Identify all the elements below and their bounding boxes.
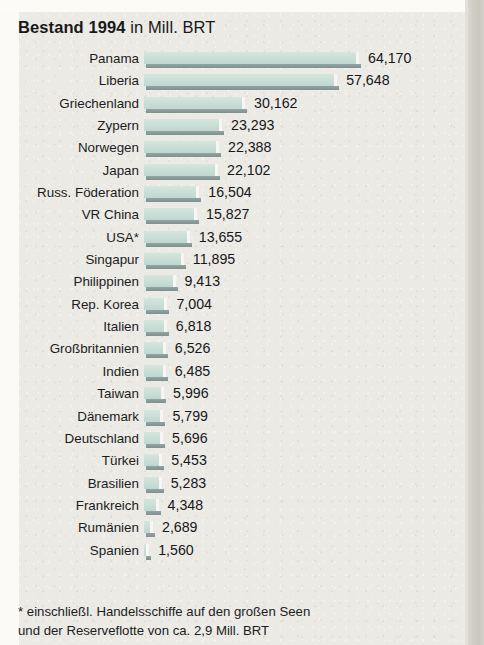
- bar-group: [144, 162, 222, 184]
- bar: [144, 141, 219, 153]
- bar-value-label: 9,413: [185, 273, 221, 289]
- bar-end-highlight: [356, 52, 359, 64]
- bar-value-label: 5,996: [173, 385, 209, 401]
- bar-category-label: Großbritannien: [0, 341, 139, 356]
- bar-drop-shadow: [146, 489, 164, 493]
- bar-group: [144, 385, 168, 407]
- bar-group: [144, 430, 167, 452]
- bar-group: [144, 139, 223, 161]
- bar-drop-shadow: [146, 377, 168, 381]
- bar-group: [144, 452, 166, 474]
- bar-category-label: USA*: [0, 230, 139, 245]
- chart-row: Griechenland30,162: [0, 95, 449, 117]
- bar-value-label: 23,293: [231, 117, 274, 133]
- chart-row: Liberia57,648: [0, 72, 449, 94]
- bar-group: [144, 72, 341, 94]
- bar-drop-shadow: [146, 556, 151, 560]
- bar-value-label: 13,655: [199, 229, 242, 245]
- bar-drop-shadow: [146, 444, 165, 448]
- bar-end-highlight: [187, 231, 190, 243]
- chart-row: Italien6,818: [0, 318, 449, 340]
- bar-end-highlight: [219, 119, 222, 131]
- bar-value-label: 1,560: [158, 542, 194, 558]
- bar-drop-shadow: [146, 64, 361, 68]
- chart-row: Philippinen9,413: [0, 273, 449, 295]
- bar-category-label: Panama: [0, 51, 139, 66]
- bar-end-highlight: [164, 320, 167, 332]
- footnote: * einschließl. Handelsschiffe auf den gr…: [18, 603, 418, 640]
- bar-value-label: 22,388: [228, 139, 271, 155]
- bar-group: [144, 206, 201, 228]
- bar-end-highlight: [164, 298, 167, 310]
- bar-value-label: 22,102: [227, 162, 270, 178]
- bar-drop-shadow: [146, 220, 199, 224]
- bar-group: [144, 251, 188, 273]
- bar-category-label: Deutschland: [0, 431, 139, 446]
- page-top-margin: [0, 0, 484, 12]
- bar-value-label: 5,799: [172, 408, 208, 424]
- bar-category-label: Dänemark: [0, 409, 139, 424]
- page-title-bold: Bestand 1994: [18, 18, 126, 36]
- bar-group: [144, 117, 226, 139]
- footnote-line-1: * einschließl. Handelsschiffe auf den gr…: [18, 603, 418, 622]
- bar: [144, 208, 197, 220]
- chart-row: Zypern23,293: [0, 117, 449, 139]
- bar-value-label: 6,818: [176, 318, 212, 334]
- bar-category-label: Taiwan: [0, 386, 139, 401]
- bar-end-highlight: [181, 253, 184, 265]
- bar-drop-shadow: [146, 332, 169, 336]
- bar-group: [144, 497, 163, 519]
- bar-end-highlight: [146, 544, 149, 556]
- bar-category-label: Philippinen: [0, 274, 139, 289]
- bar-category-label: Rep. Korea: [0, 297, 139, 312]
- bar-category-label: Brasilien: [0, 476, 139, 491]
- bar-group: [144, 408, 167, 430]
- bar: [144, 275, 176, 287]
- bar-end-highlight: [216, 141, 219, 153]
- bar-value-label: 5,696: [172, 430, 208, 446]
- bar-drop-shadow: [146, 176, 220, 180]
- bar-end-highlight: [161, 387, 164, 399]
- bar-end-highlight: [242, 97, 245, 109]
- bar-category-label: VR China: [0, 207, 139, 222]
- chart-row: Japan22,102: [0, 162, 449, 184]
- bar-drop-shadow: [146, 287, 178, 291]
- bar-category-label: Singapur: [0, 252, 139, 267]
- bar-end-highlight: [173, 275, 176, 287]
- bar: [144, 97, 245, 109]
- bar-category-label: Norwegen: [0, 140, 139, 155]
- chart-row: VR China15,827: [0, 206, 449, 228]
- bar-group: [144, 542, 153, 564]
- bar-group: [144, 50, 363, 72]
- bar-end-highlight: [215, 164, 218, 176]
- footnote-line-2: und der Reserveflotte von ca. 2,9 Mill. …: [18, 622, 418, 641]
- bar-value-label: 16,504: [208, 184, 251, 200]
- bar-value-label: 2,689: [162, 519, 198, 535]
- bar-end-highlight: [163, 365, 166, 377]
- bar-group: [144, 273, 180, 295]
- bar-drop-shadow: [146, 86, 339, 90]
- bar-value-label: 6,485: [175, 363, 211, 379]
- bar-category-label: Italien: [0, 319, 139, 334]
- bar-group: [144, 184, 203, 206]
- bar-end-highlight: [150, 521, 153, 533]
- chart-row: Spanien1,560: [0, 542, 449, 564]
- bar-value-label: 64,170: [368, 50, 411, 66]
- bar: [144, 164, 218, 176]
- bar-drop-shadow: [146, 422, 165, 426]
- chart-row: Großbritannien6,526: [0, 340, 449, 362]
- bar-group: [144, 519, 157, 541]
- bar-category-label: Indien: [0, 364, 139, 379]
- bar-category-label: Liberia: [0, 73, 139, 88]
- bar-end-highlight: [196, 186, 199, 198]
- chart-row: Singapur11,895: [0, 251, 449, 273]
- bar-end-highlight: [159, 477, 162, 489]
- bar-value-label: 5,453: [171, 452, 207, 468]
- bar-category-label: Spanien: [0, 543, 139, 558]
- bar-group: [144, 296, 171, 318]
- bar-value-label: 7,004: [176, 296, 212, 312]
- bar-category-label: Japan: [0, 163, 139, 178]
- bar-drop-shadow: [146, 533, 155, 537]
- bar-drop-shadow: [146, 399, 166, 403]
- bar-category-label: Rumänien: [0, 520, 139, 535]
